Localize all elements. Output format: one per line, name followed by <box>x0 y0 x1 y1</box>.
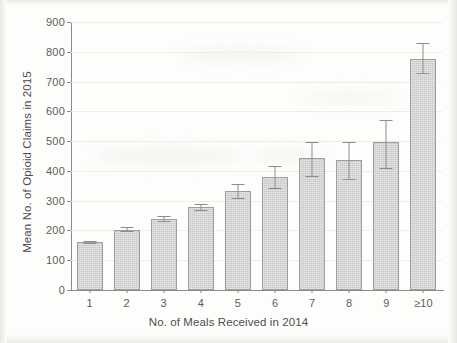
bar-group[interactable]: ≥10 <box>405 22 442 290</box>
x-tick-label: 8 <box>346 297 352 309</box>
opioid-claims-bar-chart: 0100200300400500600700800900123456789≥10… <box>0 0 457 343</box>
bar-group[interactable]: 7 <box>294 22 331 290</box>
x-tick-mark <box>126 290 127 293</box>
x-tick-mark <box>200 290 201 293</box>
error-bar-cap-lower <box>231 198 244 199</box>
y-tick-label: 300 <box>46 195 65 207</box>
y-tick-label: 500 <box>46 135 65 147</box>
bar[interactable] <box>114 230 140 290</box>
error-bar-cap-lower <box>306 176 319 177</box>
plot-area: 0100200300400500600700800900123456789≥10 <box>71 22 442 290</box>
error-bar-cap-upper <box>231 184 244 185</box>
x-tick-label: 5 <box>235 297 241 309</box>
scan-edge-shadow <box>0 335 457 343</box>
x-tick-label: 2 <box>123 297 129 309</box>
error-bar-line <box>386 120 387 168</box>
y-axis-title: Mean No. of Opioid Claims in 2015 <box>21 57 33 267</box>
y-tick-label: 200 <box>46 224 65 236</box>
bar-group[interactable]: 2 <box>108 22 145 290</box>
error-bar-cap-upper <box>269 166 282 167</box>
bar-group[interactable]: 6 <box>257 22 294 290</box>
error-bar-cap-lower <box>194 210 207 211</box>
bar[interactable] <box>262 177 288 290</box>
bar-group[interactable]: 4 <box>182 22 219 290</box>
x-tick-label: ≥10 <box>414 297 433 309</box>
error-bar-cap-lower <box>380 168 393 169</box>
x-axis-title: No. of Meals Received in 2014 <box>0 316 457 328</box>
y-tick-label: 700 <box>46 76 65 88</box>
x-tick-label: 9 <box>383 297 389 309</box>
bar[interactable] <box>188 207 214 290</box>
scan-edge-shadow <box>448 0 457 343</box>
bar-group[interactable]: 9 <box>368 22 405 290</box>
x-tick-label: 6 <box>272 297 278 309</box>
x-tick-mark <box>237 290 238 293</box>
y-tick-label: 0 <box>59 284 65 296</box>
error-bar-cap-upper <box>417 43 430 44</box>
error-bar-cap-lower <box>120 231 133 232</box>
x-tick-label: 7 <box>309 297 315 309</box>
error-bar-cap-upper <box>157 216 170 217</box>
x-tick-mark <box>163 290 164 293</box>
x-tick-mark <box>386 290 387 293</box>
error-bar-line <box>275 166 276 188</box>
error-bar-cap-lower <box>269 188 282 189</box>
bar-group[interactable]: 5 <box>219 22 256 290</box>
x-tick-mark <box>275 290 276 293</box>
error-bar-cap-lower <box>157 221 170 222</box>
x-tick-mark <box>312 290 313 293</box>
x-tick-label: 3 <box>161 297 167 309</box>
bar-group[interactable]: 1 <box>71 22 108 290</box>
y-tick-label: 800 <box>46 46 65 58</box>
error-bar-cap-upper <box>83 241 96 242</box>
bar[interactable] <box>151 219 177 290</box>
error-bar-line <box>312 142 313 175</box>
bar[interactable] <box>77 242 103 290</box>
error-bar-cap-upper <box>343 142 356 143</box>
x-tick-mark <box>89 290 90 293</box>
scan-edge-shadow <box>0 0 457 6</box>
error-bar-cap-upper <box>306 142 319 143</box>
bar-group[interactable]: 8 <box>331 22 368 290</box>
error-bar-line <box>237 184 238 198</box>
error-bar-cap-lower <box>343 179 356 180</box>
error-bar-cap-upper <box>120 227 133 228</box>
x-tick-label: 4 <box>198 297 204 309</box>
x-tick-mark <box>349 290 350 293</box>
error-bar-line <box>349 142 350 179</box>
bar-group[interactable]: 3 <box>145 22 182 290</box>
bar[interactable] <box>410 59 436 290</box>
bar[interactable] <box>299 158 325 290</box>
error-bar-cap-upper <box>380 120 393 121</box>
y-tick-label: 600 <box>46 105 65 117</box>
error-bar-cap-upper <box>194 204 207 205</box>
y-tick-mark <box>67 290 71 291</box>
error-bar-line <box>423 43 424 73</box>
y-tick-label: 100 <box>46 254 65 266</box>
y-tick-label: 400 <box>46 165 65 177</box>
error-bar-cap-lower <box>417 73 430 74</box>
bar[interactable] <box>225 191 251 290</box>
y-tick-label: 900 <box>46 16 65 28</box>
error-bar-cap-lower <box>83 243 96 244</box>
scan-edge-shadow <box>0 0 7 343</box>
x-tick-label: 1 <box>86 297 92 309</box>
x-tick-mark <box>423 290 424 293</box>
